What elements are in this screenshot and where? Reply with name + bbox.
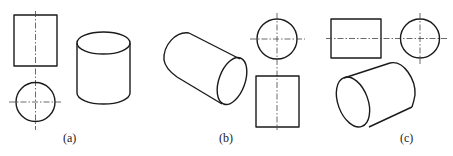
- panel-a-label: (a): [63, 131, 76, 145]
- panel-a-isometric-cylinder: [77, 32, 130, 104]
- panel-b: (b): [164, 13, 305, 145]
- panel-a-cylinder-top-ellipse: [77, 32, 130, 54]
- panel-c: (c): [326, 13, 447, 145]
- panel-b-label: (b): [219, 131, 233, 145]
- panel-b-cylinder-bottom-edge: [177, 77, 222, 104]
- panel-b-cylinder-front-ellipse: [211, 54, 252, 109]
- panel-b-cylinder-top-edge: [189, 33, 240, 59]
- panel-c-cylinder-front-ellipse: [330, 72, 376, 131]
- panel-b-isometric-cylinder: [164, 33, 253, 109]
- panel-b-cylinder-back-arc: [164, 33, 189, 77]
- panel-b-rectangle-view: [256, 76, 299, 127]
- cylinder-projection-figure: (a) (b) (c): [0, 0, 453, 156]
- panel-c-cylinder-top-edge: [344, 63, 390, 78]
- panel-c-cylinder-bottom-edge: [369, 107, 412, 127]
- panel-a-cylinder-bottom-arc: [77, 93, 130, 104]
- panel-c-label: (c): [400, 131, 413, 145]
- panel-c-isometric-cylinder: [330, 63, 415, 132]
- panel-a: (a): [9, 11, 130, 145]
- panel-c-cylinder-back-arc: [390, 63, 415, 107]
